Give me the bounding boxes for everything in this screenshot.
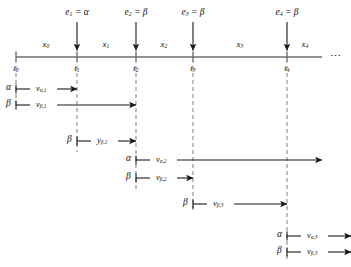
event-label-e4: e4 = β [275,8,298,18]
v-beta-2-greek: β [126,172,131,182]
v-beta-2-label: vβ,2 [156,173,166,182]
axis-tick-label-t0: t0 [13,64,18,74]
v-alpha-3-bottom-label: vα,3 [307,231,318,240]
v-beta-3-bottom-greek: β [277,246,282,256]
axis-group [16,52,322,63]
axis-continuation-dots: ⋯ [330,51,342,62]
measure-arrows-group [16,85,351,257]
interval-label-x3: x3 [237,40,244,50]
axis-tick-label-t4: t4 [284,64,289,74]
dashed-guides-group [16,66,287,262]
axis-tick-label-t3: t3 [190,64,195,74]
axis-tick-label-t2: t2 [133,64,138,74]
v-alpha-3-bottom-greek: α [277,230,282,240]
event-label-e3: e3 = β [181,8,204,18]
v-alpha-2-label: vα,2 [156,155,167,164]
v-alpha-1-greek: α [6,83,11,93]
timeline-diagram: t0t1t2t3t4x0x1x2x3x4⋯e1 = αe2 = βe3 = βe… [0,0,351,267]
v-beta-3-greek: β [183,198,188,208]
v-alpha-2-greek: α [126,154,131,164]
event-label-e1: e1 = α [65,8,88,18]
v-beta-3-bottom-label: vβ,3 [307,247,317,256]
event-label-e2: e2 = β [124,8,147,18]
v-alpha-1-label: vα,1 [36,84,47,93]
interval-label-x2: x2 [161,40,168,50]
interval-label-x4: x4 [302,40,309,50]
diagram-canvas [0,0,351,267]
interval-label-x1: x1 [103,40,110,50]
v-beta-1-greek: β [6,99,11,109]
v-beta-3-label: vβ,3 [213,199,223,208]
v-beta-1-label: vβ,1 [36,100,46,109]
axis-tick-label-t1: t1 [74,64,79,74]
y-beta-1-label: yβ,1 [97,136,107,145]
interval-label-x0: x0 [43,40,50,50]
y-beta-1-greek: β [67,135,72,145]
